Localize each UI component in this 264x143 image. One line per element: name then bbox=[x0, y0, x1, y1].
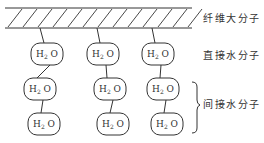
h2o-label: H2 O bbox=[99, 84, 121, 95]
label-fiber-macromolecule: 纤维大分子 bbox=[203, 12, 261, 24]
hydrogen-bond-line bbox=[152, 28, 155, 43]
h2o-label: H2 O bbox=[102, 119, 124, 130]
label-indirect-water: 间接水分子 bbox=[203, 98, 261, 110]
h2o-label: H2 O bbox=[156, 119, 178, 130]
h2o-label: H2 O bbox=[33, 119, 55, 130]
hydrogen-bond-line bbox=[110, 100, 113, 113]
h2o-label: H2 O bbox=[147, 49, 169, 60]
h2o-label: H2 O bbox=[29, 84, 51, 95]
hydrogen-bond-line bbox=[40, 28, 44, 43]
molecule-chains: H2 OH2 OH2 OH2 OH2 OH2 OH2 OH2 OH2 O bbox=[24, 28, 183, 135]
hydrogen-bond-line bbox=[37, 65, 50, 78]
brace-indirect bbox=[192, 82, 200, 133]
hydrogen-bond-line bbox=[164, 100, 166, 113]
hydrogen-bond-line bbox=[106, 65, 107, 78]
hydrogen-bond-line bbox=[160, 65, 161, 78]
water-adsorption-diagram: H2 OH2 OH2 OH2 OH2 OH2 OH2 OH2 OH2 O 纤维大… bbox=[0, 0, 264, 143]
h2o-label: H2 O bbox=[36, 49, 58, 60]
fiber-macromolecule-bar bbox=[5, 8, 202, 28]
h2o-label: H2 O bbox=[92, 49, 114, 60]
hydrogen-bond-line bbox=[41, 100, 43, 113]
hydrogen-bond-line bbox=[97, 28, 100, 43]
chain-column-1: H2 OH2 OH2 O bbox=[24, 28, 63, 135]
chain-column-3: H2 OH2 OH2 O bbox=[142, 28, 183, 135]
label-direct-water: 直接水分子 bbox=[203, 49, 261, 61]
chain-column-2: H2 OH2 OH2 O bbox=[87, 28, 129, 135]
h2o-label: H2 O bbox=[152, 84, 174, 95]
